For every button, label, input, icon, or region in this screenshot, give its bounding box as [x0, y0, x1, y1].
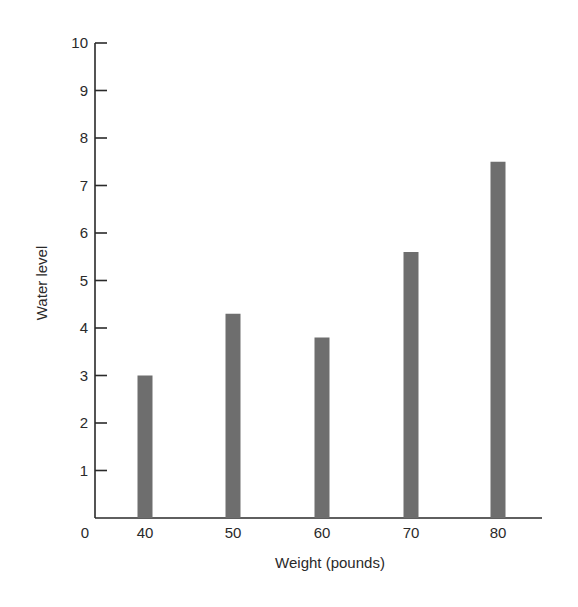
y-tick-label: 6	[80, 224, 88, 241]
y-axis: 12345678910	[71, 34, 107, 518]
bar-70	[404, 252, 419, 518]
y-tick-label: 5	[80, 272, 88, 289]
y-tick-label: 8	[80, 129, 88, 146]
x-tick-label: 50	[225, 524, 242, 541]
y-tick-label: 7	[80, 177, 88, 194]
origin-label: 0	[81, 524, 89, 541]
y-tick-label: 3	[80, 367, 88, 384]
x-tick-label: 60	[314, 524, 331, 541]
bar-50	[226, 314, 241, 518]
x-tick-label: 40	[137, 524, 154, 541]
bar-chart: 12345678910 04050607080 Water level Weig…	[0, 0, 578, 607]
bar-60	[315, 338, 330, 519]
y-axis-title: Water level	[33, 246, 50, 320]
bar-40	[138, 376, 153, 519]
x-tick-label: 80	[490, 524, 507, 541]
bar-80	[491, 162, 506, 518]
y-tick-label: 9	[80, 82, 88, 99]
x-axis-title: Weight (pounds)	[275, 554, 385, 571]
bars	[138, 162, 506, 518]
y-tick-label: 4	[80, 319, 88, 336]
y-tick-label: 2	[80, 414, 88, 431]
x-axis: 04050607080	[81, 518, 542, 541]
y-tick-label: 1	[80, 462, 88, 479]
x-tick-label: 70	[403, 524, 420, 541]
y-tick-label: 10	[71, 34, 88, 51]
